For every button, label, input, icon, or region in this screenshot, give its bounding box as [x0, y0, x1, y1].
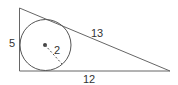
triangle-diagram: 5 13 12 2 [0, 0, 178, 85]
radius-label: 2 [54, 44, 60, 56]
bottom-side-label: 12 [83, 73, 95, 85]
left-side-label: 5 [9, 37, 15, 49]
hypotenuse-label: 13 [91, 27, 103, 39]
right-triangle [20, 8, 171, 71]
